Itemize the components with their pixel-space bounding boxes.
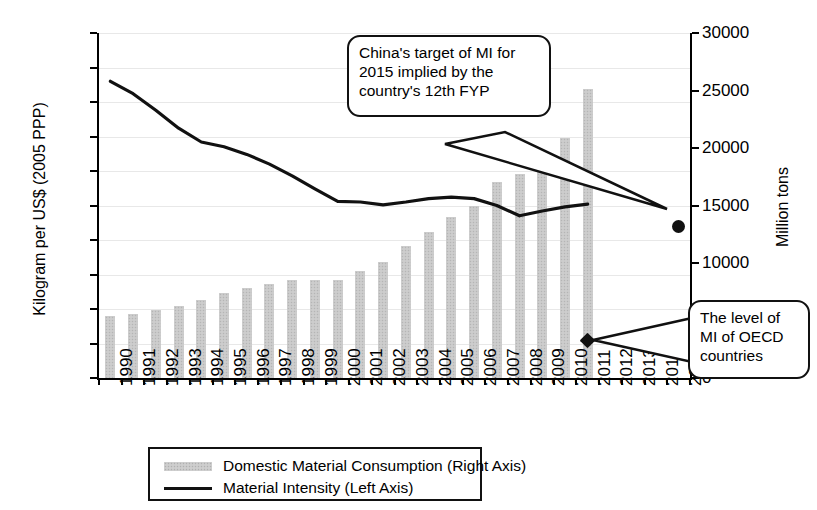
callout-china-line-1: China's target of MI for xyxy=(359,43,540,62)
callout-tail-china xyxy=(445,132,667,209)
callout-oecd-level: The level of MI of OECD countries xyxy=(688,300,810,379)
callout-china-line-2: 2015 implied by the xyxy=(359,62,540,81)
callout-oecd-line-3: countries xyxy=(700,346,799,365)
callout-china-target: China's target of MI for 2015 implied by… xyxy=(347,35,551,117)
callout-tail-oecd xyxy=(593,318,692,362)
line-swatch-icon xyxy=(164,487,212,490)
chart-container: Kilogram per US$ (2005 PPP) Million tons… xyxy=(0,0,817,510)
chart-legend: Domestic Material Consumption (Right Axi… xyxy=(148,447,482,501)
callout-oecd-line-1: The level of xyxy=(700,308,799,327)
legend-label-mi: Material Intensity (Left Axis) xyxy=(223,479,413,497)
legend-item-mi: Material Intensity (Left Axis) xyxy=(164,477,480,499)
callout-oecd-line-2: MI of OECD xyxy=(700,327,799,346)
callout-china-line-3: country's 12th FYP xyxy=(359,81,540,100)
bar-swatch-icon xyxy=(164,462,212,471)
legend-label-dmc: Domestic Material Consumption (Right Axi… xyxy=(223,457,526,475)
legend-item-dmc: Domestic Material Consumption (Right Axi… xyxy=(164,455,480,477)
